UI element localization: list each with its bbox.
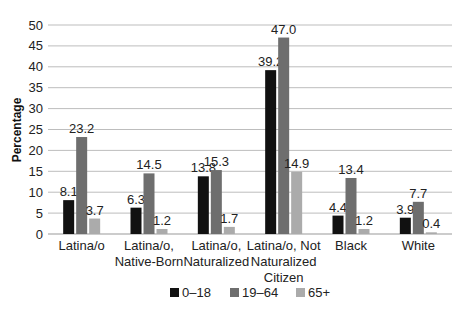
legend-label: 65+ <box>308 285 330 300</box>
legend: 0–1819–6465+ <box>170 285 330 300</box>
y-tick-label: 40 <box>29 59 43 74</box>
data-label: 14.9 <box>284 156 309 171</box>
data-label: 15.3 <box>204 154 229 169</box>
x-axis-categories: Latina/oLatina/o,Native-BornLatina/o,Nat… <box>59 238 435 285</box>
x-category-label: Latina/o, <box>191 238 241 253</box>
legend-swatch <box>230 288 239 297</box>
x-category-label: Latina/o <box>59 238 105 253</box>
y-tick-label: 30 <box>29 101 43 116</box>
data-label: 23.2 <box>69 121 94 136</box>
data-label: 3.9 <box>396 202 414 217</box>
bar <box>198 176 209 234</box>
legend-label: 19–64 <box>242 285 278 300</box>
y-axis-label: Percentage <box>10 97 24 162</box>
bar <box>224 227 235 234</box>
bar-chart: 05101520253035404550 Percentage 8.123.23… <box>0 0 468 311</box>
data-label: 8.1 <box>60 184 78 199</box>
legend-swatch <box>296 288 305 297</box>
data-label: 14.5 <box>136 157 161 172</box>
y-tick-label: 50 <box>29 18 43 33</box>
data-label: 13.4 <box>338 162 363 177</box>
bars: 8.123.23.76.314.51.213.815.31.739.247.01… <box>60 22 441 234</box>
bar <box>63 200 74 234</box>
data-label: 1.2 <box>153 213 171 228</box>
y-tick-label: 0 <box>36 227 43 242</box>
bar <box>131 208 142 234</box>
bar <box>291 172 302 234</box>
data-label: 3.7 <box>86 203 104 218</box>
gridlines <box>48 25 452 234</box>
bar <box>265 70 276 234</box>
y-tick-label: 35 <box>29 80 43 95</box>
y-tick-label: 15 <box>29 164 43 179</box>
bar <box>157 229 168 234</box>
y-tick-label: 20 <box>29 143 43 158</box>
bar <box>400 218 411 234</box>
x-category-label: White <box>402 238 435 253</box>
data-label: 1.7 <box>220 211 238 226</box>
bar <box>359 229 370 234</box>
y-tick-label: 10 <box>29 185 43 200</box>
x-category-label: Naturalized <box>183 254 249 269</box>
y-tick-label: 5 <box>36 206 43 221</box>
data-label: 7.7 <box>409 186 427 201</box>
x-category-label: Citizen <box>264 270 304 285</box>
bar <box>426 232 437 234</box>
data-label: 4.4 <box>329 200 347 215</box>
data-label: 0.4 <box>422 216 440 231</box>
legend-label: 0–18 <box>182 285 211 300</box>
x-category-label: Latina/o, Not <box>247 238 321 253</box>
y-tick-label: 25 <box>29 122 43 137</box>
bar <box>89 219 100 234</box>
y-axis-ticks: 05101520253035404550 <box>29 18 43 242</box>
data-label: 6.3 <box>127 192 145 207</box>
y-tick-label: 45 <box>29 38 43 53</box>
bar <box>76 137 87 234</box>
bar <box>278 38 289 234</box>
x-category-label: Naturalized <box>251 254 317 269</box>
data-label: 47.0 <box>271 22 296 37</box>
x-category-label: Black <box>335 238 367 253</box>
data-label: 1.2 <box>355 213 373 228</box>
x-category-label: Latina/o, <box>124 238 174 253</box>
legend-swatch <box>170 288 179 297</box>
bar <box>333 216 344 234</box>
x-category-label: Native-Born <box>115 254 184 269</box>
